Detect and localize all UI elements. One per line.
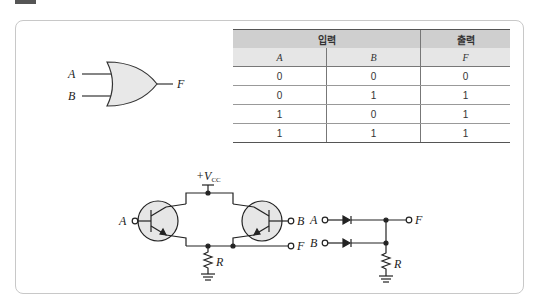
- cell: 0: [233, 86, 327, 105]
- vcc-label: +VCC: [196, 169, 221, 184]
- gate-input-b: B: [68, 89, 76, 103]
- cell: 1: [233, 105, 327, 124]
- col-f: F: [421, 48, 511, 67]
- terminal-a: [322, 217, 328, 223]
- or-gate: [82, 62, 173, 106]
- tr-output-f: F: [296, 239, 305, 253]
- tr-input-b: B: [297, 214, 305, 228]
- tr-resistor-r: R: [215, 255, 224, 269]
- tr-input-a: A: [118, 214, 127, 228]
- cell: 1: [233, 124, 327, 143]
- cell: 0: [327, 105, 421, 124]
- or-gate-icon: [107, 62, 157, 106]
- cell: 1: [421, 86, 511, 105]
- gate-input-a: A: [67, 67, 76, 81]
- terminal-b: [322, 240, 328, 246]
- terminal-b: [288, 218, 294, 224]
- resistor-icon: [382, 243, 390, 276]
- cell: 0: [327, 67, 421, 86]
- header-input: 입력: [233, 30, 421, 49]
- col-a: A: [233, 48, 327, 67]
- transistor-or-circuit: [132, 185, 294, 280]
- cell: 1: [327, 124, 421, 143]
- cell: 0: [421, 67, 511, 86]
- table-row: 0 1 1: [233, 86, 510, 105]
- col-b: B: [327, 48, 421, 67]
- diode-icon: [343, 216, 350, 224]
- terminal-f: [406, 217, 412, 223]
- diode-icon: [343, 239, 350, 247]
- table-row: 0 0 0: [233, 67, 510, 86]
- terminal-a: [132, 218, 138, 224]
- diode-or-circuit: [322, 216, 412, 282]
- truth-table: 입력 출력 A B F 0 0 0 0 1 1 1 0 1 1 1 1: [233, 29, 510, 143]
- gate-output-f: F: [176, 77, 185, 91]
- d-input-a: A: [309, 213, 318, 227]
- table-row: 1 0 1: [233, 105, 510, 124]
- d-resistor-r: R: [393, 257, 402, 271]
- junction-node: [206, 191, 210, 195]
- cell: 1: [421, 105, 511, 124]
- cell: 1: [327, 86, 421, 105]
- terminal-f: [288, 243, 294, 249]
- cell: 0: [233, 67, 327, 86]
- cell: 1: [421, 124, 511, 143]
- resistor-icon: [204, 246, 212, 274]
- table-row: 1 1 1: [233, 124, 510, 143]
- header-output: 출력: [421, 30, 511, 49]
- d-output-f: F: [414, 213, 423, 227]
- d-input-b: B: [310, 236, 318, 250]
